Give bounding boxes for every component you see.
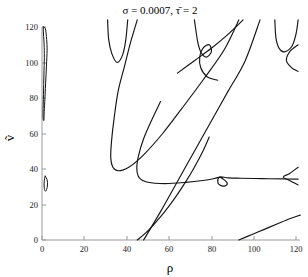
y-tick-label-60: 60 — [30, 129, 39, 139]
chart-title: σ = 0.0007, τ̄ = 2 — [122, 4, 197, 16]
y-tick-label-80: 80 — [30, 93, 39, 103]
curve-branch-L-right-small-cusp-top — [286, 45, 298, 72]
curve-branch-K-right-fork — [283, 167, 298, 185]
y-tick-label-20: 20 — [30, 200, 39, 210]
curve-thin-loop-lower — [44, 176, 47, 191]
x-tick-label-100: 100 — [248, 244, 261, 254]
curve-branch-A-cusp-upper-left — [108, 20, 128, 63]
curve-thin-loop-upper — [43, 27, 47, 121]
curve-branch-B-long-V — [111, 20, 239, 171]
curve-branch-D-cusp-top-right-loop — [194, 20, 217, 80]
figure-container: σ = 0.0007, τ̄ = 2 0 20 40 60 80 100 120 — [0, 0, 308, 277]
y-tick-label-100: 100 — [25, 58, 38, 68]
chart-plot: σ = 0.0007, τ̄ = 2 0 20 40 60 80 100 120 — [0, 0, 308, 277]
curve-branch-H-small-loop-center — [218, 177, 298, 186]
x-ticks-group: 0 20 40 60 80 100 120 — [40, 236, 303, 254]
curve-group — [43, 20, 300, 240]
curve-branch-J-lower-rising-2 — [239, 215, 300, 240]
y-axis-label: ṽ — [2, 134, 17, 141]
x-tick-label-20: 20 — [80, 244, 89, 254]
x-tick-label-120: 120 — [290, 244, 303, 254]
y-tick-label-0: 0 — [34, 235, 38, 245]
y-tick-label-120: 120 — [25, 22, 38, 32]
x-tick-label-60: 60 — [165, 244, 174, 254]
x-tick-label-40: 40 — [123, 244, 132, 254]
x-tick-label-80: 80 — [208, 244, 217, 254]
y-tick-label-40: 40 — [30, 164, 39, 174]
axes-group — [42, 27, 300, 240]
y-ticks-group: 0 20 40 60 80 100 120 — [25, 22, 46, 245]
x-tick-label-0: 0 — [40, 244, 44, 254]
x-axis-label: ρ — [167, 260, 174, 275]
